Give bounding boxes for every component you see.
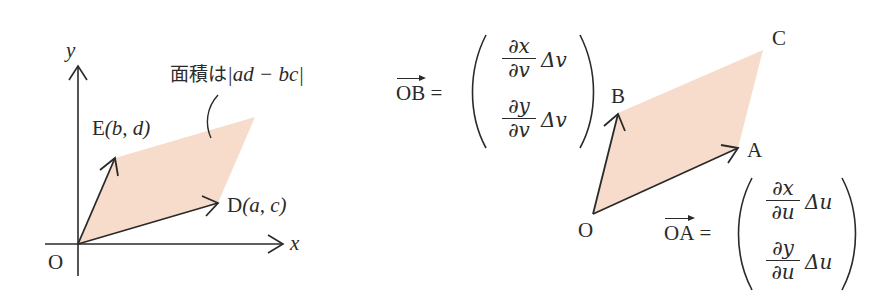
area-label-expression: |ad − bc|: [227, 62, 304, 86]
origin-label-right: O: [578, 220, 593, 241]
ob-equation-lhs: OB =: [396, 83, 442, 104]
oa-row1-fraction: ∂x ∂u: [766, 178, 800, 223]
ob-right-paren: [580, 35, 594, 148]
oa-row1-denominator: ∂u: [771, 202, 794, 223]
oa-row1-delta: Δu: [805, 190, 832, 214]
point-c-label: C: [772, 28, 786, 49]
oa-vector-symbol: OA: [664, 223, 694, 244]
ob-row2-denominator: ∂v: [508, 120, 530, 141]
ob-row1-denominator: ∂v: [508, 60, 530, 81]
point-a-label: A: [747, 140, 762, 161]
parallelogram-area-right: [593, 50, 763, 214]
ob-equals: =: [430, 81, 442, 105]
origin-label-left: O: [48, 252, 63, 273]
ob-left-paren: [473, 35, 487, 148]
ob-vector-symbol: OB: [396, 83, 425, 104]
ob-row2-delta: Δv: [541, 108, 567, 132]
area-label-text: 面積は: [170, 63, 227, 85]
point-e-coords: (b, d): [105, 116, 151, 140]
oa-row1-numerator: ∂x: [772, 178, 794, 199]
oa-equals: =: [700, 221, 712, 245]
oa-equation-lhs: OA =: [664, 223, 711, 244]
ob-row1-fraction: ∂x ∂v: [502, 36, 536, 81]
point-d-label: D(a, c): [227, 195, 286, 216]
area-label: 面積は|ad − bc|: [170, 64, 304, 85]
oa-right-paren: [842, 178, 856, 290]
x-axis-label: x: [290, 233, 299, 254]
ob-row1-numerator: ∂x: [508, 36, 530, 57]
point-d-name: D: [227, 193, 242, 217]
y-axis-label: y: [66, 40, 75, 61]
ob-row2-numerator: ∂y: [508, 96, 530, 117]
point-e-name: E: [92, 116, 105, 140]
point-d-coords: (a, c): [242, 193, 286, 217]
point-b-label: B: [611, 86, 625, 107]
oa-row2-numerator: ∂y: [772, 238, 794, 259]
oa-row2-denominator: ∂u: [771, 262, 794, 283]
oa-left-paren: [739, 178, 753, 290]
oa-row2-delta: Δu: [805, 250, 832, 274]
ob-row2-fraction: ∂y ∂v: [502, 96, 536, 141]
point-e-label: E(b, d): [92, 118, 150, 139]
oa-row2-fraction: ∂y ∂u: [766, 238, 800, 283]
ob-row1-delta: Δv: [541, 48, 567, 72]
